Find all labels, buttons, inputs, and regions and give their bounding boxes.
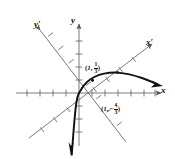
coordinate-plot-figure: y x y′ x′ (1, 13) (1, −43) — [0, 0, 175, 159]
x-prime-axis-label: x′ — [146, 38, 153, 47]
x-prime-axis — [29, 44, 152, 138]
x-axis-label: x — [161, 86, 166, 95]
y-prime-mark: ′ — [38, 19, 41, 29]
point-marker-peak — [116, 71, 119, 74]
upper-point-label: (1, 13) — [85, 62, 100, 74]
lower-point-close-paren: ) — [118, 105, 120, 113]
plot-canvas — [0, 0, 175, 159]
x-prime-axis-line — [29, 44, 152, 138]
x-prime-mark: ′ — [151, 37, 154, 47]
upper-point-close-paren: ) — [98, 64, 100, 72]
y-axis — [76, 24, 83, 146]
lower-point-label: (1, −43) — [101, 103, 120, 115]
y-prime-axis-label: y′ — [34, 20, 41, 29]
x-axis — [16, 90, 161, 97]
point-marker-upper — [91, 79, 94, 82]
y-axis-label: y — [71, 16, 75, 25]
